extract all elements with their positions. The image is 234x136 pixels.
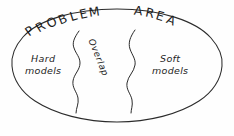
region-label-soft-line2: models bbox=[152, 65, 188, 77]
region-label-hard-line2: models bbox=[25, 65, 61, 77]
right-wavy-divider bbox=[127, 30, 135, 113]
region-label-soft-line1: Soft bbox=[152, 53, 188, 65]
region-label-soft: Soft models bbox=[152, 53, 188, 76]
title-letter: A bbox=[133, 3, 143, 19]
title-letter: M bbox=[88, 3, 101, 20]
left-wavy-divider bbox=[73, 31, 80, 113]
region-label-hard-line1: Hard bbox=[25, 53, 61, 65]
diagram-canvas: P R O B L E M A R E A Hard models Overla… bbox=[0, 0, 234, 136]
region-label-hard: Hard models bbox=[25, 53, 61, 76]
